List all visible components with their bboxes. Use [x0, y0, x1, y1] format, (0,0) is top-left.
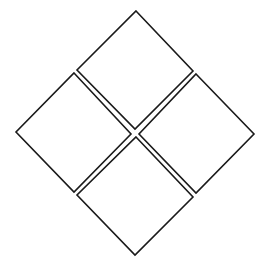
- four-diamond-diagram: [0, 0, 265, 264]
